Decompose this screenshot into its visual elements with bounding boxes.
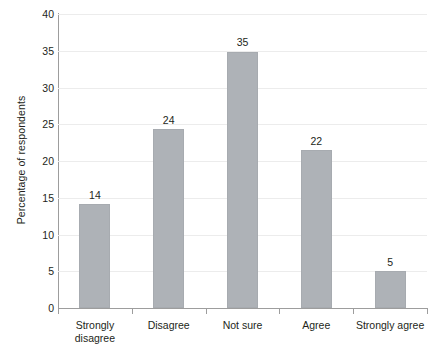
x-category-label[interactable]: Not sure	[206, 319, 280, 332]
y-tick-label: 35	[14, 46, 54, 56]
y-tick-label: 40	[14, 9, 54, 19]
bar-value-label: 35	[223, 37, 263, 48]
y-tick-label: 20	[14, 156, 54, 166]
x-tick-mark	[132, 309, 133, 314]
x-tick-mark	[279, 309, 280, 314]
plot-area: 142435225	[58, 14, 427, 308]
y-tick-label: 15	[14, 193, 54, 203]
x-category-label-line: Disagree	[132, 319, 206, 332]
y-tick-label: 5	[14, 266, 54, 276]
bar-value-label: 24	[149, 115, 189, 126]
y-tick-label: 0	[14, 303, 54, 313]
bar[interactable]	[79, 204, 110, 308]
x-category-label-line: Agree	[279, 319, 353, 332]
x-tick-mark	[58, 309, 59, 314]
gridline	[58, 308, 427, 309]
x-category-label-line: disagree	[58, 332, 132, 345]
x-tick-mark	[427, 309, 428, 314]
y-axis-ticks: 0510152025303540	[10, 0, 54, 294]
bar[interactable]	[153, 129, 184, 308]
x-category-label[interactable]: Agree	[279, 319, 353, 332]
x-category-label[interactable]: Stronglydisagree	[58, 319, 132, 344]
x-category-label[interactable]: Strongly agree	[353, 319, 427, 332]
bar[interactable]	[301, 150, 332, 308]
y-tick-label: 25	[14, 119, 54, 129]
bar-value-label: 5	[370, 257, 410, 268]
y-tick-label: 10	[14, 230, 54, 240]
x-tick-mark	[353, 309, 354, 314]
y-tick-label: 30	[14, 83, 54, 93]
bar-value-label: 22	[296, 136, 336, 147]
bar-value-label: 14	[75, 190, 115, 201]
x-category-label-line: Strongly agree	[353, 319, 427, 332]
x-category-label-line: Strongly	[58, 319, 132, 332]
x-category-label[interactable]: Disagree	[132, 319, 206, 332]
x-category-label-line: Not sure	[206, 319, 280, 332]
gridline	[58, 14, 427, 15]
bar[interactable]	[227, 52, 258, 309]
x-tick-mark	[206, 309, 207, 314]
bar-chart: Percentage of respondents 05101520253035…	[0, 0, 445, 361]
bar[interactable]	[375, 271, 406, 308]
